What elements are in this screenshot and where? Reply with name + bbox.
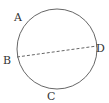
point-label-b: B	[3, 54, 11, 67]
circle	[17, 9, 97, 89]
point-label-c: C	[47, 90, 55, 103]
dashed-chord-bd	[17, 46, 97, 57]
circle-diagram: A B C D	[0, 0, 109, 103]
point-label-d: D	[96, 42, 105, 55]
point-label-a: A	[13, 11, 23, 24]
